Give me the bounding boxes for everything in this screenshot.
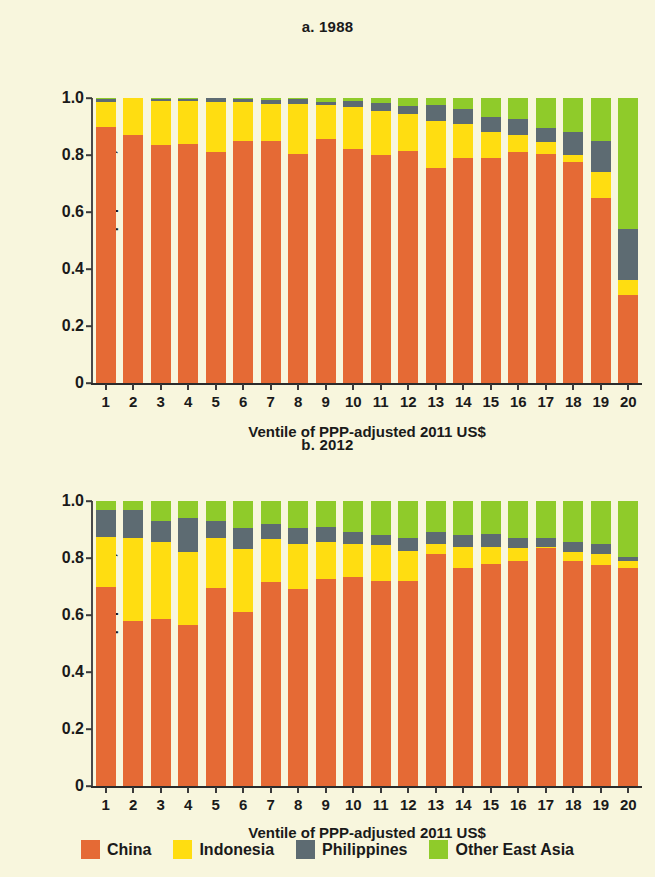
- legend-item-indonesia[interactable]: Indonesia: [173, 840, 274, 859]
- stacked-bar[interactable]: [123, 98, 143, 383]
- stacked-bar[interactable]: [96, 98, 116, 383]
- stacked-bar[interactable]: [151, 501, 171, 786]
- stacked-bar[interactable]: [426, 98, 446, 383]
- x-tick: 10: [340, 384, 368, 410]
- stacked-bar[interactable]: [481, 98, 501, 383]
- stacked-bar[interactable]: [123, 501, 143, 786]
- y-tick-label: 0.8: [62, 549, 92, 567]
- bar-segment-china: [206, 588, 226, 786]
- x-tick-label: 16: [510, 796, 527, 813]
- stacked-bar[interactable]: [508, 98, 528, 383]
- stacked-bar[interactable]: [316, 98, 336, 383]
- bar-segment-indonesia: [426, 544, 446, 554]
- stacked-bar[interactable]: [343, 501, 363, 786]
- x-tick-mark: [160, 384, 162, 390]
- x-tick-mark: [105, 787, 107, 793]
- stacked-bar[interactable]: [371, 98, 391, 383]
- stacked-bar[interactable]: [618, 501, 638, 786]
- x-tick-mark: [545, 384, 547, 390]
- stacked-bar[interactable]: [536, 501, 556, 786]
- bar-segment-china: [398, 151, 418, 383]
- x-tick-label: 1: [102, 796, 110, 813]
- stacked-bar[interactable]: [563, 501, 583, 786]
- bar-segment-indonesia: [288, 104, 308, 154]
- stacked-bar[interactable]: [206, 98, 226, 383]
- stacked-bar[interactable]: [591, 501, 611, 786]
- stacked-bar[interactable]: [398, 98, 418, 383]
- stacked-bar[interactable]: [398, 501, 418, 786]
- x-tick-mark: [490, 384, 492, 390]
- stacked-bar[interactable]: [96, 501, 116, 786]
- stacked-bar[interactable]: [563, 98, 583, 383]
- x-tick-mark: [380, 384, 382, 390]
- bar-segment-other-east-asia: [206, 501, 226, 521]
- legend-swatch-icon: [173, 840, 192, 859]
- stacked-bar[interactable]: [591, 98, 611, 383]
- stacked-bar[interactable]: [206, 501, 226, 786]
- legend-item-china[interactable]: China: [81, 840, 151, 859]
- bar-segment-other-east-asia: [96, 501, 116, 510]
- x-tick-mark: [105, 384, 107, 390]
- bar-segment-other-east-asia: [508, 501, 528, 538]
- x-tick-label: 6: [239, 796, 247, 813]
- bar-segment-other-east-asia: [591, 501, 611, 544]
- bar-segment-indonesia: [206, 538, 226, 588]
- bar-segment-indonesia: [453, 124, 473, 158]
- bar-segment-china: [398, 581, 418, 786]
- y-tick-label: 0.6: [62, 203, 92, 221]
- bar-slot: [147, 98, 175, 383]
- legend-item-other-east-asia[interactable]: Other East Asia: [429, 840, 574, 859]
- stacked-bar[interactable]: [151, 98, 171, 383]
- stacked-bar[interactable]: [178, 501, 198, 786]
- x-tick: 9: [312, 787, 340, 813]
- stacked-bar[interactable]: [288, 98, 308, 383]
- stacked-bar[interactable]: [453, 501, 473, 786]
- stacked-bar[interactable]: [178, 98, 198, 383]
- stacked-bar[interactable]: [233, 98, 253, 383]
- bar-segment-other-east-asia: [536, 98, 556, 128]
- bar-slot: [312, 98, 340, 383]
- x-tick-mark: [572, 787, 574, 793]
- stacked-bar[interactable]: [453, 98, 473, 383]
- bar-slot: [202, 501, 230, 786]
- stacked-bar[interactable]: [316, 501, 336, 786]
- bar-segment-indonesia: [481, 132, 501, 158]
- stacked-bar[interactable]: [618, 98, 638, 383]
- bar-segment-indonesia: [508, 135, 528, 152]
- bar-segment-china: [233, 141, 253, 383]
- bar-segment-indonesia: [123, 98, 143, 135]
- stacked-bar[interactable]: [261, 98, 281, 383]
- bar-segment-indonesia: [453, 547, 473, 568]
- bar-slot: [340, 98, 368, 383]
- bar-segment-philippines: [371, 535, 391, 545]
- bar-segment-china: [316, 579, 336, 786]
- legend-item-philippines[interactable]: Philippines: [296, 840, 407, 859]
- axes-1988: 00.20.40.60.81.0 12345678910111213141516…: [92, 98, 642, 383]
- x-tick: 3: [147, 384, 175, 410]
- bar-segment-china: [481, 564, 501, 786]
- x-tick: 11: [367, 384, 395, 410]
- x-tick-label: 1: [102, 393, 110, 410]
- bar-segment-other-east-asia: [481, 98, 501, 117]
- x-tick-mark: [215, 787, 217, 793]
- bar-segment-indonesia: [618, 280, 638, 294]
- stacked-bar[interactable]: [536, 98, 556, 383]
- x-tick: 13: [422, 787, 450, 813]
- bar-segment-indonesia: [426, 121, 446, 168]
- bar-segment-indonesia: [178, 552, 198, 625]
- axes-2012: 00.20.40.60.81.0 12345678910111213141516…: [92, 501, 642, 786]
- x-tick-mark: [352, 384, 354, 390]
- stacked-bar[interactable]: [233, 501, 253, 786]
- stacked-bar[interactable]: [426, 501, 446, 786]
- bar-segment-other-east-asia: [481, 501, 501, 534]
- stacked-bar[interactable]: [371, 501, 391, 786]
- stacked-bar[interactable]: [261, 501, 281, 786]
- bar-slot: [422, 501, 450, 786]
- stacked-bar[interactable]: [288, 501, 308, 786]
- bar-segment-other-east-asia: [151, 501, 171, 521]
- stacked-bar[interactable]: [508, 501, 528, 786]
- bar-segment-other-east-asia: [261, 501, 281, 524]
- stacked-bar[interactable]: [343, 98, 363, 383]
- bar-segment-philippines: [178, 518, 198, 552]
- stacked-bar[interactable]: [481, 501, 501, 786]
